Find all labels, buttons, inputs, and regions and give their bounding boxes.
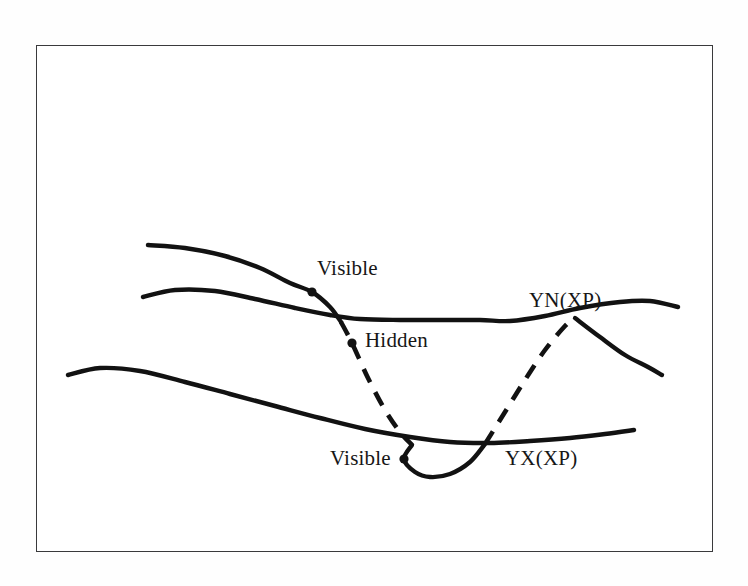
curve-label-yx: YX(XP) [505, 448, 577, 469]
annotation-label-hidden: Hidden [365, 330, 428, 351]
annotation-label-visible-top: Visible [317, 258, 378, 279]
annotation-label-visible-bottom: Visible [330, 448, 391, 469]
figure-border-frame [36, 45, 713, 552]
curve-label-yn: YN(XP) [529, 290, 601, 311]
figure-page: Visible Hidden Visible YN(XP) YX(XP) [0, 0, 748, 586]
